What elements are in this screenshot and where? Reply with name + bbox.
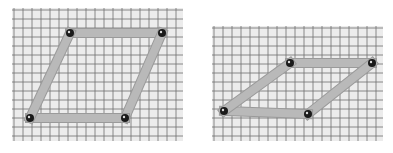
pivot-bolt	[304, 110, 312, 118]
pivot-bolt	[220, 107, 228, 115]
grid-paper-right	[212, 26, 383, 141]
pivot-bolt	[121, 114, 129, 122]
pivot-bolt	[158, 29, 166, 37]
linkage-figures	[0, 0, 393, 153]
pivot-bolt	[66, 29, 74, 37]
linkage-photo	[0, 0, 393, 153]
pivot-bolt	[286, 59, 294, 67]
pivot-bolt	[26, 114, 34, 122]
pivot-bolt	[368, 59, 376, 67]
